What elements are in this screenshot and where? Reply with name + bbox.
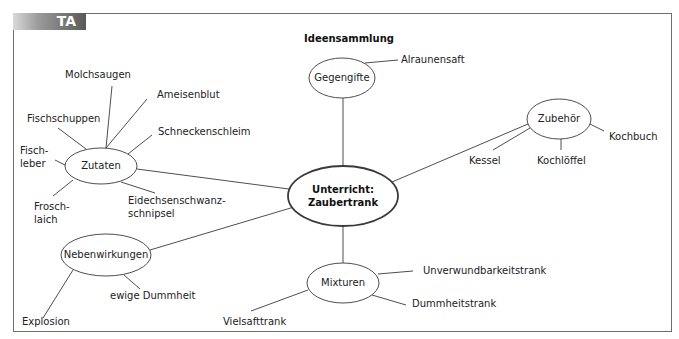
- center-line-2: Zaubertrank: [288, 196, 398, 209]
- leaf-ameisenblut: Ameisenblut: [157, 89, 220, 101]
- leaf-kochloeffel: Kochlöffel: [537, 155, 586, 167]
- node-zubehoer: Zubehör: [527, 113, 591, 125]
- leaf-eidechsenschwanz-2: schnipsel: [128, 208, 175, 220]
- mindmap-canvas: TA: [0, 0, 679, 339]
- node-nebenwirkungen: Nebenwirkungen: [61, 249, 151, 261]
- edge-froschlaich: [53, 180, 73, 196]
- edge-vielsafttrank: [251, 290, 308, 311]
- leaf-vielsafttrank: Vielsafttrank: [223, 316, 286, 328]
- leaf-alraunensaft: Alraunensaft: [401, 54, 465, 66]
- leaf-fischleber-2: leber: [20, 158, 46, 170]
- leaf-unverwundbarkeitstrank: Unverwundbarkeitstrank: [423, 265, 546, 277]
- edge-molchsaugen: [106, 86, 112, 148]
- edge-ewige-dummheit: [124, 275, 140, 289]
- leaf-fischschuppen: Fischschuppen: [27, 113, 100, 125]
- edge-schneckenschleim: [128, 135, 152, 154]
- leaf-schneckenschleim: Schneckenschleim: [158, 126, 251, 138]
- leaf-froschlaich-2: laich: [34, 214, 58, 226]
- leaf-dummheitstrank: Dummheitstrank: [412, 298, 496, 310]
- leaf-kessel: Kessel: [469, 155, 501, 167]
- edge-dummheitstrank: [372, 295, 406, 305]
- leaf-froschlaich-1: Frosch-: [34, 201, 70, 213]
- edge-fischleber: [55, 160, 65, 165]
- edge-explosion: [43, 270, 73, 318]
- node-gegengifte: Gegengifte: [309, 72, 375, 84]
- diagram-title: Ideensammlung: [304, 33, 394, 44]
- edge-kochbuch: [590, 124, 604, 131]
- edge-alraunensaft: [365, 60, 398, 63]
- edge-ameisenblut: [106, 99, 147, 148]
- leaf-ewige-dummheit: ewige Dummheit: [110, 290, 196, 302]
- edge-eidechsenschwanz: [121, 182, 155, 193]
- edge-center-zubehoer: [392, 124, 528, 182]
- center-line-1: Unterricht:: [288, 183, 398, 196]
- node-mixturen: Mixturen: [307, 277, 379, 289]
- leaf-molchsaugen: Molchsaugen: [65, 69, 131, 81]
- edge-center-zutaten: [137, 169, 289, 189]
- edge-fischschuppen: [58, 128, 86, 149]
- leaf-eidechsenschwanz-1: Eidechsenschwanz-: [128, 195, 226, 207]
- leaf-fischleber-1: Fisch-: [20, 145, 48, 157]
- leaf-explosion: Explosion: [22, 316, 70, 328]
- leaf-kochbuch: Kochbuch: [609, 131, 658, 143]
- center-node: Unterricht: Zaubertrank: [288, 183, 398, 209]
- node-zutaten: Zutaten: [65, 160, 137, 172]
- edge-unverwundbarkeitstrank: [378, 271, 413, 274]
